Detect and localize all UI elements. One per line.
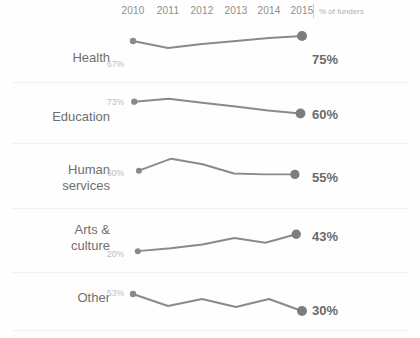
end-value-other: 30%	[312, 303, 338, 318]
start-value-health: 67%	[88, 59, 124, 69]
year-tick-2011: 2011	[157, 5, 179, 16]
bottom-rule	[12, 330, 408, 331]
year-tick-2012: 2012	[190, 5, 213, 16]
data-point-start-health	[130, 38, 136, 44]
sparkline-path-education	[134, 99, 300, 114]
end-value-health: 75%	[312, 52, 338, 67]
end-value-human-services: 55%	[312, 170, 338, 185]
start-value-other: 53%	[88, 288, 124, 298]
year-axis-header: 2010 2011 2012 2013 2014 2015 % of funde…	[0, 0, 420, 24]
year-tick-2015: 2015	[290, 5, 313, 16]
data-point-start-education	[131, 99, 137, 105]
sparkline-human-services	[0, 143, 420, 203]
axis-divider	[313, 4, 314, 18]
year-tick-2014: 2014	[257, 5, 280, 16]
data-point-start-other	[130, 291, 136, 297]
start-value-human-services: 60%	[88, 168, 124, 178]
sparkline-health	[0, 24, 420, 84]
start-value-education: 73%	[88, 97, 124, 107]
data-point-end-health	[297, 31, 307, 41]
sparkline-path-health	[133, 36, 302, 48]
data-point-end-human-services	[290, 170, 299, 179]
data-point-start-arts-culture	[135, 248, 141, 254]
sparkline-path-human-services	[139, 159, 295, 175]
start-value-arts-culture: 20%	[88, 249, 124, 259]
sparkline-education	[0, 82, 420, 142]
chart-row-health: Health 67% 75%	[0, 24, 420, 82]
chart-row-education: Education 73% 60%	[0, 82, 420, 143]
year-tick-2010: 2010	[121, 5, 144, 16]
end-value-arts-culture: 43%	[312, 229, 338, 244]
year-tick-2013: 2013	[224, 5, 247, 16]
data-point-end-other	[297, 306, 307, 316]
sparkline-other	[0, 272, 420, 332]
chart-row-arts-culture: Arts & culture 20% 43%	[0, 208, 420, 272]
chart-row-other: Other 53% 30%	[0, 272, 420, 330]
chart-row-human-services: Human services 60% 55%	[0, 143, 420, 208]
axis-note-percent-of-funders: % of funders	[319, 7, 364, 16]
sparkline-arts-culture	[0, 208, 420, 268]
sparkline-path-arts-culture	[138, 234, 296, 251]
sparkline-chart: 2010 2011 2012 2013 2014 2015 % of funde…	[0, 0, 420, 338]
sparkline-path-other	[133, 294, 302, 311]
end-value-education: 60%	[312, 107, 338, 122]
data-point-end-arts-culture	[292, 230, 301, 239]
data-point-start-human-services	[136, 168, 142, 174]
data-point-end-education	[296, 109, 306, 119]
